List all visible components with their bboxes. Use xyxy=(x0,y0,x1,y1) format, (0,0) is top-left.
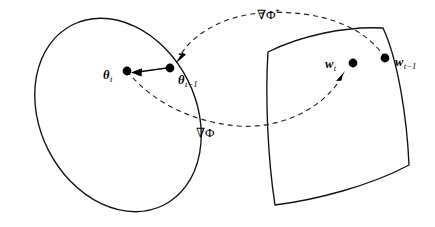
label-grad-phi-star-base: ∇Φ xyxy=(257,7,276,22)
grad-phi-star-curve-group xyxy=(176,12,386,63)
label-w-t-minus-1: wt−1 xyxy=(395,53,417,70)
label-theta-t-minus-1-subscript: t−1 xyxy=(185,79,198,89)
update-arrow-head xyxy=(131,68,142,76)
label-theta-t-subscript: t xyxy=(110,74,113,84)
label-grad-phi-star: ∇Φ* xyxy=(257,6,280,22)
update-arrow-shaft xyxy=(138,68,167,72)
label-w-t: wt xyxy=(325,55,336,72)
grad-phi-curve-group xyxy=(127,71,345,126)
grad-phi-curve xyxy=(127,71,340,126)
w-t-minus-1-dot xyxy=(381,54,390,63)
label-theta-t-base: θ xyxy=(103,68,110,82)
theta-t-dot xyxy=(123,67,132,76)
dual-region-quadrilateral xyxy=(267,28,409,205)
label-theta-t: θt xyxy=(103,66,112,83)
diagram-canvas xyxy=(0,0,435,227)
label-theta-t-minus-1: θt−1 xyxy=(178,71,198,88)
w-t-dot xyxy=(349,59,358,68)
grad-phi-star-curve xyxy=(180,12,385,58)
primal-region-ellipse xyxy=(3,0,234,227)
label-w-t-minus-1-subscript: t−1 xyxy=(403,61,416,71)
dual-region-group xyxy=(267,28,409,205)
label-w-t-subscript: t xyxy=(333,63,336,73)
primal-region-group xyxy=(3,0,234,227)
theta-t-minus-1-dot xyxy=(166,64,175,73)
grad-phi-arrowhead xyxy=(336,71,345,81)
figure-root: θt θt−1 wt wt−1 ∇Φ* ∇Φ xyxy=(0,0,435,227)
label-grad-phi-star-superscript: * xyxy=(276,8,280,17)
update-arrow-group xyxy=(131,68,167,76)
label-theta-t-minus-1-base: θ xyxy=(178,73,185,87)
label-grad-phi-base: ∇Φ xyxy=(196,125,215,140)
label-grad-phi: ∇Φ xyxy=(196,124,215,140)
